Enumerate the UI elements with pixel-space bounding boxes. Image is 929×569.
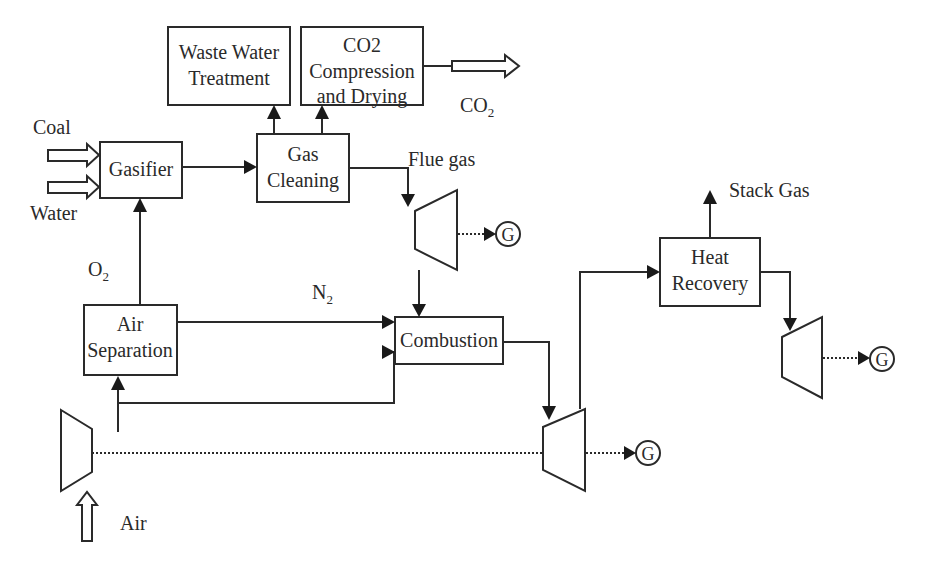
- flue-gas-label: Flue gas: [408, 148, 475, 171]
- gasifier-block: Gasifier: [100, 142, 182, 198]
- gas-turbine: [543, 409, 585, 491]
- o2-label: O2: [88, 258, 109, 284]
- co2-output-label: CO2: [460, 94, 494, 120]
- generator-2-label: G: [642, 444, 655, 464]
- coal-label: Coal: [33, 116, 71, 138]
- combustion-block: Combustion: [395, 317, 503, 364]
- generator-2: G: [636, 441, 660, 465]
- air-separation-label-line1: Air: [117, 313, 144, 335]
- gasifier-label: Gasifier: [109, 158, 174, 180]
- generator-3-label: G: [876, 350, 889, 370]
- co2-output-arrow: [452, 55, 519, 77]
- waste-water-label-line2: Treatment: [188, 67, 270, 89]
- co2-compression-label-line2: Compression: [309, 60, 415, 83]
- generator-3: G: [870, 347, 894, 371]
- generator-1: G: [496, 222, 520, 246]
- waste-water-label-line1: Waste Water: [179, 41, 280, 63]
- steam-turbine: [782, 317, 822, 398]
- gas-cleaning-block: Gas Cleaning: [257, 134, 349, 202]
- n2-label: N2: [312, 281, 333, 307]
- air-input-arrow: [77, 492, 97, 541]
- co2-compression-label-line1: CO2: [343, 34, 381, 56]
- gas-cleaning-label-line2: Cleaning: [267, 169, 339, 192]
- air-separation-label-line2: Separation: [87, 339, 173, 362]
- co2-compression-block: CO2 Compression and Drying: [301, 27, 423, 108]
- heat-recovery-label-line1: Heat: [691, 246, 729, 268]
- air-label: Air: [120, 512, 147, 534]
- air-compressor: [61, 410, 92, 491]
- water-input-arrow: [48, 176, 99, 198]
- heat-recovery-block: Heat Recovery: [660, 238, 760, 306]
- syngas-expander-turbine: [415, 190, 457, 270]
- combustion-label: Combustion: [400, 329, 498, 351]
- heat-recovery-label-line2: Recovery: [672, 272, 749, 295]
- waste-water-treatment-block: Waste Water Treatment: [168, 27, 290, 105]
- coal-input-arrow: [48, 144, 99, 166]
- stack-gas-label: Stack Gas: [729, 179, 810, 201]
- air-separation-block: Air Separation: [84, 305, 177, 375]
- gas-cleaning-label-line1: Gas: [287, 143, 318, 165]
- hollow-stream-arrows: [48, 55, 519, 541]
- igcc-process-flow-diagram: Waste Water Treatment CO2 Compression an…: [0, 0, 929, 569]
- co2-compression-label-line3: and Drying: [317, 85, 408, 108]
- water-label: Water: [30, 202, 78, 224]
- generator-1-label: G: [502, 225, 515, 245]
